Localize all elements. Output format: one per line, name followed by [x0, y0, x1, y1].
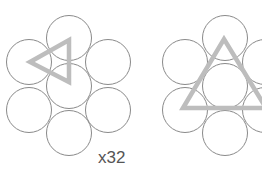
circle: [203, 111, 248, 156]
circle: [86, 40, 131, 85]
multiplier-label: x32: [98, 148, 125, 168]
triangle-outline: [183, 39, 262, 108]
hex-circle-diagram: [0, 0, 262, 178]
circle: [47, 111, 92, 156]
right-circle-cluster: [163, 16, 263, 156]
left-circle-cluster: [7, 16, 131, 156]
circle: [7, 88, 52, 133]
circle: [86, 88, 131, 133]
